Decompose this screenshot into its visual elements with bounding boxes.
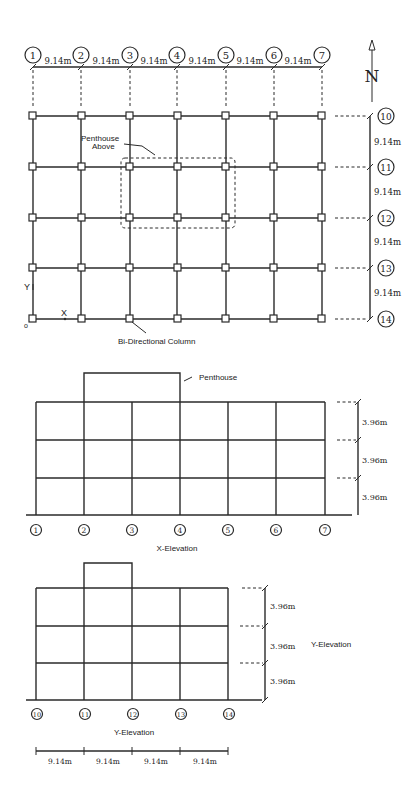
north-label: N (365, 66, 380, 86)
grid-label-3: 3 (127, 50, 133, 61)
grid-label-13: 13 (380, 264, 392, 274)
y-elevation: 3.96m 3.96m 3.96m Y-Elevation 10 11 12 1… (26, 563, 351, 766)
y-grid-label: 12 (129, 711, 137, 719)
x-penthouse-label: Penthouse (199, 373, 238, 382)
y-spacing-label: 9.14m (374, 187, 401, 197)
y-bay-width: 9.14m (96, 757, 120, 766)
grid-label-1: 1 (30, 50, 36, 61)
penthouse-note-line2: Above (92, 142, 115, 151)
grid-label-4: 4 (174, 50, 180, 61)
y-elevation-title: Y-Elevation (114, 728, 154, 737)
y-bay-dimension: 9.14m 9.14m 9.14m 9.14m (36, 747, 228, 766)
x-elevation-title: X-Elevation (157, 544, 198, 553)
grid-label-10: 10 (380, 112, 392, 122)
y-spacing-label: 9.14m (374, 237, 401, 247)
column-leader-line (132, 322, 146, 333)
origin-label: o (24, 322, 28, 329)
structural-diagram: 1 2 3 4 5 6 7 9.14m 9.14m 9.14m 9.14m 9.… (0, 0, 414, 794)
axis-x-label: X (61, 308, 67, 318)
y-spacing-label: 9.14m (374, 137, 401, 147)
y-bay-width: 9.14m (144, 757, 168, 766)
plan-extension-lines (33, 70, 322, 108)
y-spacing-label: 9.14m (374, 288, 401, 298)
axis-y-label: Y (24, 282, 30, 292)
x-grid-label: 6 (274, 526, 279, 535)
x-spacing-label: 9.14m (189, 56, 216, 66)
x-spacing-label: 9.14m (141, 56, 168, 66)
x-spacing-label: 9.14m (93, 56, 120, 66)
grid-label-12: 12 (380, 214, 391, 224)
penthouse-leader-line (124, 144, 155, 155)
y-story-height: 3.96m (270, 677, 296, 686)
x-story-height: 3.96m (362, 456, 388, 465)
x-elevation: Penthouse 3.96m 3.96m 3.96m 1 2 3 4 5 (26, 373, 388, 553)
y-penthouse (84, 563, 132, 588)
x-grid-label: 4 (178, 526, 183, 535)
grid-label-2: 2 (78, 50, 84, 61)
y-grid-label: 13 (177, 711, 185, 719)
x-spacing-label: 9.14m (237, 56, 264, 66)
grid-label-14: 14 (380, 315, 392, 325)
grid-label-5: 5 (223, 50, 229, 61)
y-grid-label: 10 (33, 711, 41, 719)
y-elevation-side-title: Y-Elevation (311, 640, 351, 649)
x-grid-label: 3 (130, 526, 135, 535)
x-grid-label: 7 (323, 526, 328, 535)
x-grid-label: 5 (226, 526, 231, 535)
plan-y-dimension (335, 113, 373, 322)
x-penthouse-leader (184, 377, 192, 381)
column-note: Bi-Directional Column (118, 337, 195, 346)
x-spacing-label: 9.14m (45, 56, 72, 66)
floor-plan: 1 2 3 4 5 6 7 9.14m 9.14m 9.14m 9.14m 9.… (24, 40, 401, 346)
y-bay-width: 9.14m (193, 757, 217, 766)
north-arrow-icon: N (365, 40, 380, 102)
x-elevation-grid-labels: 1 2 3 4 5 6 7 (31, 525, 331, 536)
grid-label-11: 11 (380, 163, 391, 173)
x-story-height: 3.96m (362, 418, 388, 427)
y-grid-label: 11 (81, 711, 89, 719)
y-bay-width: 9.14m (48, 757, 72, 766)
x-grid-label: 2 (82, 526, 87, 535)
grid-label-6: 6 (271, 50, 277, 61)
y-story-height: 3.96m (270, 642, 296, 651)
x-spacing-label: 9.14m (285, 56, 312, 66)
x-penthouse (84, 373, 180, 402)
grid-label-7: 7 (319, 50, 325, 61)
y-grid-label: 14 (225, 711, 233, 719)
y-story-height: 3.96m (270, 602, 296, 611)
y-elevation-grid-labels: 10 11 12 13 14 (32, 709, 235, 720)
x-story-height: 3.96m (362, 493, 388, 502)
x-grid-label: 1 (34, 526, 39, 535)
